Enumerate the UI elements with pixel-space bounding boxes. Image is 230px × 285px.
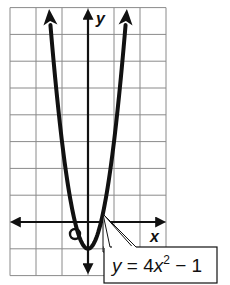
equation-callout: y = 4x2 − 1 xyxy=(103,214,217,283)
eq-coef: = 4 xyxy=(122,255,155,276)
parabola-graph: y x y = 4x2 − 1 xyxy=(0,0,230,285)
y-axis-label: y xyxy=(95,10,106,27)
x-axis-label: x xyxy=(149,228,160,245)
equation-label: y = 4x2 − 1 xyxy=(110,253,202,276)
eq-constant: − 1 xyxy=(170,255,202,276)
